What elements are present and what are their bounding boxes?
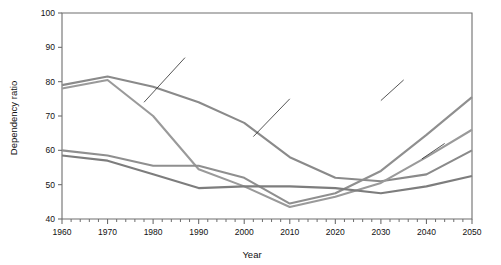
leader-line-4 — [422, 143, 445, 158]
y-tick-label: 100 — [41, 8, 55, 18]
y-axis-title: Dependency ratio — [8, 81, 19, 155]
series-line-series-3 — [62, 97, 472, 203]
x-tick-label: 2020 — [326, 227, 345, 237]
x-tick-label: 2040 — [417, 227, 436, 237]
x-axis-tick-labels: 1960197019801990200020102020203020402050 — [53, 227, 482, 237]
x-axis-title: Year — [242, 249, 261, 260]
series-lines — [62, 77, 472, 207]
x-tick-label: 2030 — [371, 227, 390, 237]
series-line-series-4 — [62, 155, 472, 193]
y-axis-ticks — [58, 13, 62, 219]
x-tick-label: 1990 — [189, 227, 208, 237]
x-tick-label: 2010 — [280, 227, 299, 237]
leader-line-3 — [381, 80, 404, 101]
y-tick-label: 70 — [46, 111, 56, 121]
x-tick-label: 1960 — [53, 227, 72, 237]
chart-container: 405060708090100 196019701980199020002010… — [0, 0, 501, 265]
annotation-leader-lines — [144, 58, 445, 159]
x-axis-ticks — [62, 219, 472, 224]
dependency-ratio-line-chart: 405060708090100 196019701980199020002010… — [0, 0, 501, 265]
y-axis-tick-labels: 405060708090100 — [41, 8, 55, 224]
y-tick-label: 50 — [46, 180, 56, 190]
x-tick-label: 2000 — [235, 227, 254, 237]
x-tick-label: 2050 — [463, 227, 482, 237]
leader-line-2 — [253, 99, 289, 137]
x-tick-label: 1970 — [98, 227, 117, 237]
x-tick-label: 1980 — [144, 227, 163, 237]
y-tick-label: 40 — [46, 214, 56, 224]
y-tick-label: 60 — [46, 145, 56, 155]
y-tick-label: 90 — [46, 42, 56, 52]
y-tick-label: 80 — [46, 77, 56, 87]
